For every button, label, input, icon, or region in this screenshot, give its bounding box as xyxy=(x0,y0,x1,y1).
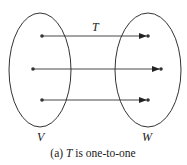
domain-label-V: V xyxy=(37,130,46,144)
mapping-arrow-1 xyxy=(40,34,150,38)
caption-suffix: is one-to-one xyxy=(72,147,135,159)
domain-set-V xyxy=(9,13,71,127)
caption-prefix: (a) xyxy=(50,147,66,160)
codomain-set-W xyxy=(115,13,181,127)
function-label-T: T xyxy=(92,20,100,34)
codomain-label-W: W xyxy=(142,130,153,144)
diagram-svg: T V W (a) T is one-to-one xyxy=(0,0,187,165)
one-to-one-diagram: T V W (a) T is one-to-one xyxy=(0,0,187,165)
caption: (a) T is one-to-one xyxy=(50,147,135,160)
mapping-arrow-3 xyxy=(40,98,150,102)
mapping-arrow-2 xyxy=(31,67,163,71)
